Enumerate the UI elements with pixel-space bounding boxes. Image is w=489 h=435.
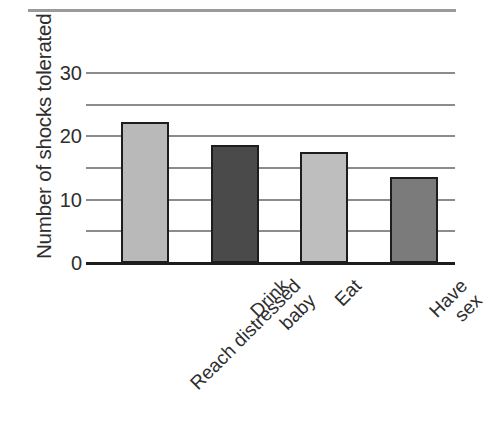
x-axis-category-label: Have sex bbox=[425, 275, 486, 336]
y-axis-tick-label: 0 bbox=[71, 252, 82, 275]
y-axis-tick-label: 30 bbox=[60, 62, 82, 85]
y-axis-tick bbox=[86, 167, 96, 169]
y-axis-tick-label: 20 bbox=[60, 125, 82, 148]
gridline bbox=[96, 104, 455, 106]
plot-area: 0102030Reach distressed babyDrinkEatHave… bbox=[96, 73, 455, 263]
y-axis-tick-label: 10 bbox=[60, 188, 82, 211]
bar bbox=[211, 145, 259, 263]
y-axis-tick bbox=[86, 199, 96, 201]
top-rule-divider bbox=[28, 9, 456, 12]
chart-figure: Number of shocks tolerated 0102030Reach … bbox=[0, 0, 489, 435]
y-axis-tick bbox=[86, 230, 96, 232]
y-axis-tick bbox=[86, 135, 96, 137]
x-axis-category-label: Eat bbox=[331, 275, 366, 310]
bar bbox=[121, 122, 169, 263]
y-axis-title: Number of shocks tolerated bbox=[32, 39, 56, 259]
y-axis-tick bbox=[86, 72, 96, 74]
bar bbox=[390, 177, 438, 263]
y-axis-tick bbox=[86, 104, 96, 106]
bar bbox=[300, 152, 348, 263]
gridline bbox=[96, 72, 455, 74]
x-axis-category-label: Reach distressed baby bbox=[186, 275, 320, 409]
